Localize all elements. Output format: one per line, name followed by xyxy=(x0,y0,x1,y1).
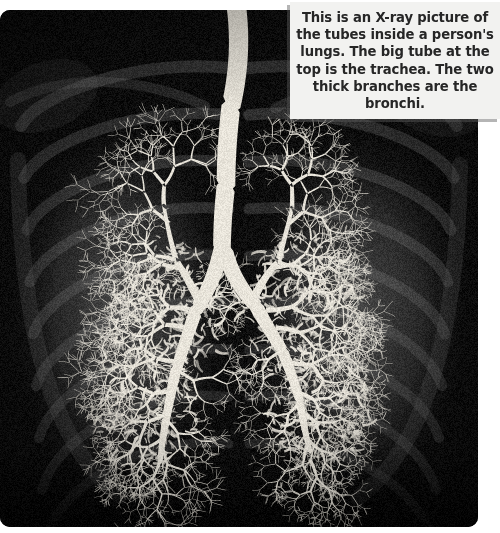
caption-card: This is an X-ray picture of the tubes in… xyxy=(290,2,500,119)
screenshot-root: This is an X-ray picture of the tubes in… xyxy=(0,0,500,533)
caption-text: This is an X-ray picture of the tubes in… xyxy=(296,9,494,112)
